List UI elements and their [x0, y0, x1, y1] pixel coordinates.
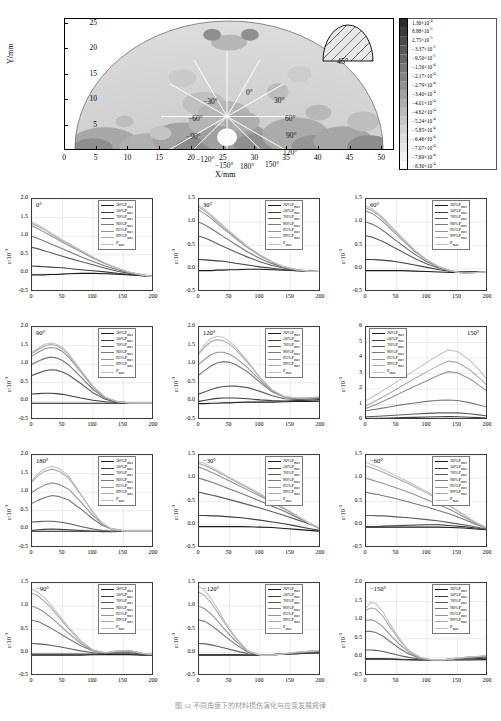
- subplot-legend: 30%Pmax50%Pmax70%Pmax90%Pmax95%Pmax99%Pm…: [369, 328, 407, 378]
- subplot-y-tick: 6: [342, 322, 362, 328]
- legend-swatch: [435, 474, 448, 475]
- subplot-y-tick: 1.5: [175, 450, 195, 456]
- legend-swatch: [268, 628, 281, 629]
- subplot-x-tick: 50: [387, 293, 405, 299]
- subplot-x-tick: 0: [189, 293, 207, 299]
- subplot-60deg: ε/10-3-0.50.00.51.01.505010015020060°30%…: [334, 186, 501, 314]
- subplot-angle-tag: 30°: [203, 201, 212, 208]
- subplot-y-tick: 0.5: [175, 241, 195, 247]
- legend-entry[interactable]: Pmax: [372, 369, 404, 375]
- legend-entry[interactable]: Pmax: [268, 369, 300, 375]
- subplot-minus120deg: ε/10-3-0.50.00.51.01.5050100150200−120°3…: [167, 570, 334, 698]
- subplot-y-tick: 5: [342, 338, 362, 344]
- subplot-y-tick: 1.5: [342, 194, 362, 200]
- subplot-legend: 30%Pmax50%Pmax70%Pmax90%Pmax95%Pmax99%Pm…: [98, 200, 136, 250]
- subplot-x-tick: 100: [417, 549, 435, 555]
- legend-swatch: [435, 487, 448, 488]
- legend-swatch: [435, 615, 448, 616]
- inset-angle-label: 45°: [337, 57, 348, 66]
- legend-swatch: [101, 602, 114, 603]
- contour-x-tick: 20: [180, 153, 202, 162]
- subplot-x-tick: 150: [114, 421, 132, 427]
- subplot-y-tick: 2.0: [8, 194, 28, 200]
- subplot-y-tick: 0.0: [175, 648, 195, 654]
- subplot-y-tick: 2.0: [175, 322, 195, 328]
- legend-swatch: [268, 224, 281, 225]
- subplot-y-tick: 0.0: [8, 524, 28, 530]
- contour-x-tick: 35: [275, 153, 297, 162]
- subplot-y-tick: 1.5: [8, 578, 28, 584]
- subplot-angle-tag: −90°: [36, 585, 49, 592]
- subplot-y-tick: 1.5: [175, 194, 195, 200]
- legend-swatch: [101, 621, 114, 622]
- contour-y-tick-mark: [64, 125, 68, 126]
- legend-swatch: [435, 602, 448, 603]
- contour-angle-label: −90°: [186, 132, 201, 141]
- subplot-x-tick: 0: [22, 549, 40, 555]
- subplot-y-tick: 0.5: [8, 378, 28, 384]
- subplot-y-tick: 0.0: [175, 264, 195, 270]
- legend-entry[interactable]: Pmax: [268, 625, 300, 631]
- legend-swatch: [372, 346, 385, 347]
- contour-x-tick: 15: [148, 153, 170, 162]
- legend-entry[interactable]: Pmax: [101, 369, 133, 375]
- legend-entry[interactable]: Pmax: [435, 241, 467, 247]
- contour-angle-label: 60°: [285, 114, 296, 123]
- legend-swatch: [268, 359, 281, 360]
- legend-swatch: [268, 340, 281, 341]
- legend-swatch: [268, 493, 281, 494]
- subplot-0deg: ε/10-3-0.50.00.51.01.52.00501001502000°3…: [0, 186, 167, 314]
- subplot-y-tick: 0.5: [8, 506, 28, 512]
- subplot-y-tick: 4: [342, 353, 362, 359]
- legend-swatch: [435, 218, 448, 219]
- subplot-x-tick: 100: [83, 677, 101, 683]
- colorbar-gradient: [399, 18, 408, 170]
- subplot-y-tick: 0.0: [175, 396, 195, 402]
- contour-x-tick-mark: [286, 146, 287, 150]
- subplot-y-axis-label: ε/10-3: [171, 249, 179, 264]
- colorbar-tick-label: −5.85×10-4: [412, 126, 435, 133]
- legend-swatch: [268, 244, 281, 245]
- legend-entry[interactable]: Pmax: [101, 241, 133, 247]
- subplot-y-tick: 1: [342, 400, 362, 406]
- contour-angle-label: −60°: [188, 114, 203, 123]
- legend-swatch: [435, 608, 448, 609]
- legend-swatch: [268, 468, 281, 469]
- legend-swatch: [435, 596, 448, 597]
- subplot-y-tick: 1.0: [175, 473, 195, 479]
- contour-panel: Y/mm X/mm: [0, 0, 501, 185]
- legend-swatch: [268, 480, 281, 481]
- legend-swatch: [268, 231, 281, 232]
- contour-y-tick-mark: [64, 48, 68, 49]
- subplot-x-tick: 50: [387, 677, 405, 683]
- legend-entry[interactable]: Pmax: [101, 497, 133, 503]
- legend-swatch: [101, 365, 114, 366]
- legend-entry[interactable]: Pmax: [435, 625, 467, 631]
- legend-swatch: [101, 224, 114, 225]
- legend-entry[interactable]: Pmax: [435, 497, 467, 503]
- subplot-x-tick: 50: [220, 549, 238, 555]
- legend-swatch: [268, 365, 281, 366]
- contour-x-tick: 50: [370, 153, 392, 162]
- legend-entry[interactable]: Pmax: [268, 241, 300, 247]
- subplot-x-tick: 200: [311, 549, 329, 555]
- legend-swatch: [101, 372, 114, 373]
- legend-swatch: [101, 346, 114, 347]
- contour-angle-label: 30°: [274, 96, 285, 105]
- subplot-x-tick: 200: [478, 549, 496, 555]
- legend-swatch: [268, 333, 281, 334]
- contour-x-tick-mark: [350, 146, 351, 150]
- subplot-y-tick: 1.5: [8, 213, 28, 219]
- subplot-x-tick: 50: [53, 293, 71, 299]
- subplot-x-tick: 100: [250, 677, 268, 683]
- legend-entry[interactable]: Pmax: [101, 625, 133, 631]
- contour-angle-label: −150°: [215, 161, 233, 170]
- subplot-x-tick: 150: [448, 421, 466, 427]
- contour-x-tick: 25: [212, 153, 234, 162]
- legend-swatch: [101, 212, 114, 213]
- legend-swatch: [101, 480, 114, 481]
- contour-x-tick: 45: [339, 153, 361, 162]
- legend-swatch: [435, 589, 448, 590]
- legend-entry[interactable]: Pmax: [268, 497, 300, 503]
- colorbar-tick-label: −4.62×10-4: [412, 108, 435, 115]
